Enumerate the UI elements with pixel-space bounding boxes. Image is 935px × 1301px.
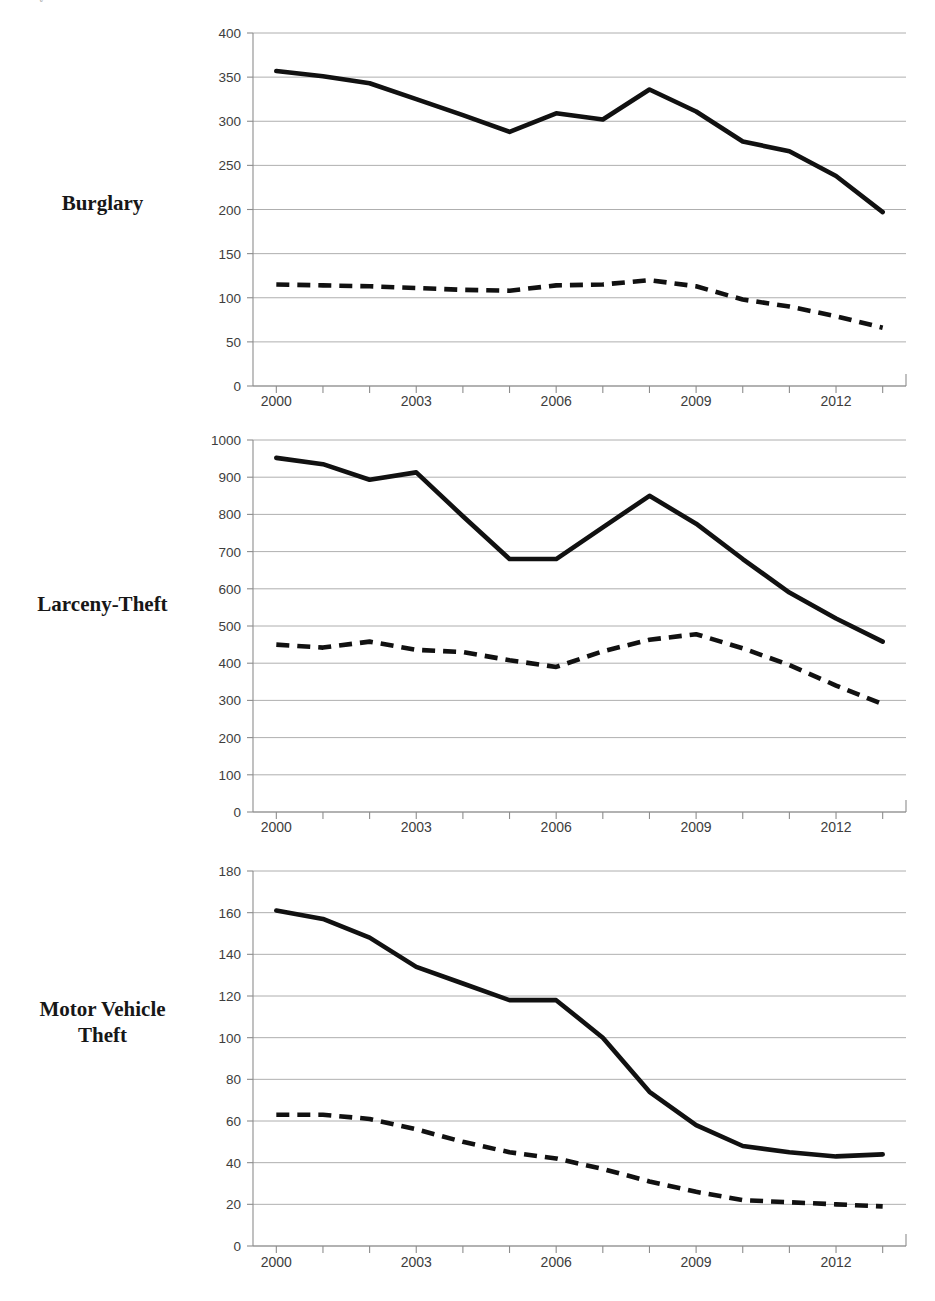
y-tick-label: 150: [218, 247, 241, 262]
y-tick-label: 120: [218, 989, 241, 1004]
y-tick-label: 0: [233, 805, 241, 820]
chart-svg: 1000900800700600500400300200100020002003…: [0, 428, 935, 846]
x-tick-label: 2000: [261, 1254, 292, 1270]
y-tick-label: 140: [218, 947, 241, 962]
y-tick-label: 40: [226, 1156, 241, 1171]
y-tick-label: 100: [218, 768, 241, 783]
x-tick-label: 2012: [820, 393, 851, 409]
x-tick-label: 2003: [401, 819, 432, 835]
chart-plot-burglary: 4003503002502001501005002000200320062009…: [0, 0, 935, 418]
series-line-dashed: [276, 280, 882, 328]
x-tick-label: 2000: [261, 819, 292, 835]
chart-page: y , Burglary 400350300250200150100500200…: [0, 0, 935, 1301]
y-tick-label: 250: [218, 158, 241, 173]
x-tick-label: 2012: [820, 1254, 851, 1270]
x-tick-label: 2000: [261, 393, 292, 409]
y-tick-label: 350: [218, 70, 241, 85]
x-tick-label: 2006: [541, 819, 572, 835]
series-line-dashed: [276, 634, 882, 704]
x-tick-label: 2006: [541, 393, 572, 409]
y-tick-label: 300: [218, 693, 241, 708]
chart-svg: 1801601401201008060402002000200320062009…: [0, 861, 935, 1301]
y-tick-label: 50: [226, 335, 241, 350]
y-tick-label: 0: [233, 1239, 241, 1254]
chart-panel-motor-vehicle-theft: Motor VehicleTheft 180160140120100806040…: [0, 861, 935, 1301]
y-tick-label: 60: [226, 1114, 241, 1129]
y-tick-label: 0: [233, 379, 241, 394]
y-tick-label: 600: [218, 582, 241, 597]
chart-plot-motor-vehicle-theft: 1801601401201008060402002000200320062009…: [0, 861, 935, 1301]
y-tick-label: 1000: [211, 433, 241, 448]
x-tick-label: 2003: [401, 1254, 432, 1270]
y-tick-label: 400: [218, 26, 241, 41]
x-tick-label: 2003: [401, 393, 432, 409]
y-tick-label: 160: [218, 906, 241, 921]
x-tick-label: 2009: [681, 1254, 712, 1270]
chart-panel-burglary: Burglary 4003503002502001501005002000200…: [0, 0, 935, 418]
y-tick-label: 800: [218, 507, 241, 522]
y-tick-label: 180: [218, 864, 241, 879]
chart-svg: 4003503002502001501005002000200320062009…: [0, 0, 935, 418]
series-line-solid: [276, 71, 882, 212]
chart-panel-larceny-theft: Larceny-Theft 10009008007006005004003002…: [0, 428, 935, 846]
y-tick-label: 80: [226, 1072, 241, 1087]
x-tick-label: 2009: [681, 393, 712, 409]
y-tick-label: 100: [218, 291, 241, 306]
y-tick-label: 700: [218, 545, 241, 560]
series-line-dashed: [276, 1115, 882, 1207]
y-tick-label: 500: [218, 619, 241, 634]
y-tick-label: 100: [218, 1031, 241, 1046]
x-tick-label: 2009: [681, 819, 712, 835]
y-tick-label: 300: [218, 114, 241, 129]
y-tick-label: 200: [218, 203, 241, 218]
series-line-solid: [276, 458, 882, 642]
x-tick-label: 2012: [820, 819, 851, 835]
y-tick-label: 20: [226, 1197, 241, 1212]
x-tick-label: 2006: [541, 1254, 572, 1270]
y-tick-label: 200: [218, 731, 241, 746]
y-tick-label: 400: [218, 656, 241, 671]
y-tick-label: 900: [218, 470, 241, 485]
chart-plot-larceny-theft: 1000900800700600500400300200100020002003…: [0, 428, 935, 846]
